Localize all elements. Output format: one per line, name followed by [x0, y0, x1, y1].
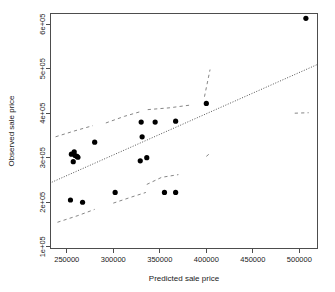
- lower-band-segment: [113, 192, 146, 203]
- data-point: [173, 190, 178, 195]
- x-axis-tick-labels: 250000300000350000400000450000500000: [54, 255, 312, 264]
- x-tick-label: 250000: [54, 255, 79, 264]
- data-point: [75, 155, 80, 160]
- y-tick-label: 6e+05: [38, 14, 47, 35]
- x-tick-label: 350000: [147, 255, 172, 264]
- y-tick-label: 4e+05: [38, 103, 47, 124]
- data-point: [139, 119, 144, 124]
- plot-frame: [51, 14, 318, 249]
- data-point: [140, 134, 145, 139]
- data-point: [71, 159, 76, 164]
- scatter-plot-figure: 250000300000350000400000450000500000 1e+…: [0, 0, 335, 292]
- y-axis-title: Observed sale price: [7, 95, 16, 167]
- data-point: [204, 101, 209, 106]
- data-point: [113, 190, 118, 195]
- y-axis-tick-labels: 1e+052e+053e+054e+055e+056e+05: [38, 14, 47, 258]
- data-point: [153, 119, 158, 124]
- data-point: [68, 197, 73, 202]
- y-tick-label: 2e+05: [38, 192, 47, 213]
- data-point: [303, 16, 308, 21]
- x-axis-title: Predicted sale price: [149, 274, 220, 283]
- x-tick-label: 450000: [240, 255, 265, 264]
- data-point: [173, 119, 178, 124]
- regression-fit-line: [52, 64, 318, 182]
- upper-band-segment: [148, 105, 190, 109]
- data-point: [138, 158, 143, 163]
- plot-canvas: 250000300000350000400000450000500000 1e+…: [0, 0, 335, 292]
- lower-band-segment: [147, 175, 179, 185]
- y-tick-label: 1e+05: [38, 236, 47, 257]
- confidence-band-lines: [56, 70, 309, 223]
- upper-band-segment: [56, 126, 93, 137]
- lower-band-segment: [57, 209, 94, 222]
- x-tick-label: 400000: [194, 255, 219, 264]
- upper-band-segment: [206, 153, 210, 156]
- data-point: [144, 155, 149, 160]
- regression-fit: [52, 64, 318, 182]
- data-point: [80, 200, 85, 205]
- y-tick-label: 5e+05: [38, 58, 47, 79]
- upper-band-segment: [204, 70, 210, 97]
- x-axis-ticks: [67, 249, 300, 253]
- data-point: [162, 190, 167, 195]
- y-tick-label: 3e+05: [38, 147, 47, 168]
- data-point: [92, 140, 97, 145]
- x-tick-label: 500000: [287, 255, 312, 264]
- plot-border: [51, 14, 318, 249]
- upper-band-segment: [106, 111, 141, 123]
- data-points: [68, 16, 309, 205]
- x-tick-label: 300000: [101, 255, 126, 264]
